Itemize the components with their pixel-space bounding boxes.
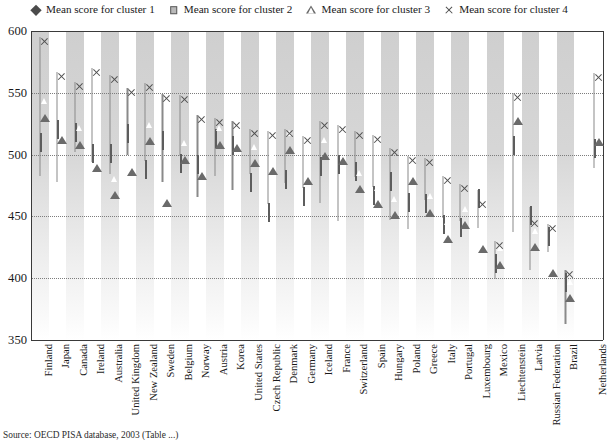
legend-label: Mean score for cluster 4 bbox=[459, 4, 568, 15]
triangle-outline-icon bbox=[268, 150, 278, 175]
data-point bbox=[57, 119, 67, 137]
y-tick-label: 550 bbox=[0, 87, 27, 100]
triangle-outline-icon bbox=[40, 97, 50, 122]
category-label: Australia bbox=[114, 344, 125, 383]
category-label: Austria bbox=[219, 344, 230, 375]
triangle-outline-icon bbox=[180, 139, 190, 164]
triangle-outline-icon bbox=[162, 182, 172, 207]
data-point bbox=[180, 139, 190, 157]
data-point bbox=[390, 194, 400, 212]
data-point bbox=[92, 147, 102, 165]
data-point bbox=[162, 132, 164, 150]
category-label: Italy bbox=[447, 344, 458, 363]
category-label: United Kingdom bbox=[131, 344, 142, 416]
category-label: Iceland bbox=[324, 344, 335, 375]
data-point bbox=[425, 192, 435, 210]
category-label: Mexico bbox=[499, 344, 510, 376]
column-band bbox=[136, 31, 154, 340]
category-label: Denmark bbox=[289, 344, 300, 383]
category-label: Czech Republic bbox=[272, 344, 283, 411]
column-band bbox=[171, 31, 189, 340]
category-label: Ireland bbox=[96, 344, 107, 374]
data-point bbox=[145, 161, 147, 179]
data-point bbox=[320, 158, 322, 176]
triangle-outline-icon bbox=[565, 277, 575, 302]
triangle-outline-icon bbox=[110, 174, 120, 199]
square-icon bbox=[145, 160, 147, 179]
category-label: Hungary bbox=[394, 344, 405, 381]
category-label: Spain bbox=[377, 344, 388, 368]
category-label: Russian Federation bbox=[552, 344, 563, 426]
square-icon bbox=[127, 124, 129, 143]
gridline bbox=[31, 93, 603, 94]
category-label: Sweden bbox=[166, 344, 177, 378]
data-point bbox=[110, 145, 112, 163]
data-point bbox=[232, 127, 242, 145]
category-label: France bbox=[342, 344, 353, 373]
category-label: Japan bbox=[61, 344, 72, 368]
y-tick-label: 450 bbox=[0, 210, 27, 223]
data-point bbox=[373, 183, 383, 201]
triangle-outline-icon bbox=[92, 147, 102, 172]
square-icon bbox=[513, 136, 515, 155]
gridline bbox=[31, 216, 603, 217]
axis-top bbox=[31, 31, 603, 32]
source-note: Source: OECD PISA database, 2003 (Table … bbox=[3, 430, 178, 440]
triangle-outline-icon bbox=[513, 100, 523, 125]
data-point bbox=[355, 168, 365, 186]
cross-icon bbox=[443, 4, 455, 16]
data-point bbox=[268, 150, 278, 168]
category-label: United States bbox=[254, 344, 265, 401]
square-icon bbox=[110, 144, 112, 163]
column-band bbox=[66, 31, 84, 340]
data-point bbox=[513, 137, 515, 155]
square-icon bbox=[268, 203, 270, 222]
triangle-outline-icon bbox=[460, 204, 470, 229]
square-icon bbox=[303, 187, 305, 206]
triangle-outline-icon bbox=[594, 121, 604, 146]
column-band bbox=[206, 31, 224, 340]
diamond-filled-icon bbox=[30, 4, 42, 16]
data-point bbox=[40, 134, 42, 152]
y-tick-label: 400 bbox=[0, 272, 27, 285]
data-point bbox=[197, 155, 207, 173]
data-point bbox=[408, 194, 410, 212]
triangle-outline-icon bbox=[373, 183, 383, 208]
triangle-outline-icon bbox=[75, 124, 85, 149]
category-label: Luxembourg bbox=[482, 344, 493, 399]
square-icon bbox=[285, 170, 287, 189]
triangle-outline-icon bbox=[145, 120, 155, 145]
triangle-outline-icon bbox=[305, 4, 317, 16]
square-icon bbox=[390, 172, 392, 191]
square-icon bbox=[162, 131, 164, 150]
column-band bbox=[522, 31, 540, 340]
range-stem bbox=[442, 176, 443, 218]
triangle-outline-icon bbox=[215, 124, 225, 149]
y-axis-tick-labels: 600550500450400350 bbox=[0, 31, 28, 340]
triangle-outline-icon bbox=[57, 119, 67, 144]
data-point bbox=[40, 97, 50, 115]
data-point bbox=[127, 125, 129, 143]
gridline bbox=[31, 155, 603, 156]
data-point bbox=[548, 252, 558, 270]
axis-right bbox=[603, 31, 604, 340]
category-label: Liechtenstein bbox=[517, 344, 528, 401]
square-icon bbox=[320, 157, 322, 176]
data-point bbox=[250, 174, 252, 192]
triangle-outline-icon bbox=[355, 168, 365, 193]
legend-item-cluster-2: Mean score for cluster 2 bbox=[168, 4, 293, 16]
category-label: Finland bbox=[44, 344, 55, 376]
triangle-outline-icon bbox=[232, 127, 242, 152]
square-icon bbox=[408, 193, 410, 212]
triangle-outline-icon bbox=[548, 252, 558, 277]
x-axis-category-labels: FinlandJapanCanadaIrelandAustraliaUnited… bbox=[31, 344, 603, 436]
data-point bbox=[162, 182, 172, 200]
triangle-outline-icon bbox=[197, 155, 207, 180]
data-point bbox=[285, 171, 287, 189]
y-tick-label: 500 bbox=[0, 149, 27, 162]
data-point bbox=[320, 135, 330, 153]
data-point bbox=[268, 204, 270, 222]
category-label: Greece bbox=[429, 344, 440, 374]
data-point bbox=[460, 204, 470, 222]
